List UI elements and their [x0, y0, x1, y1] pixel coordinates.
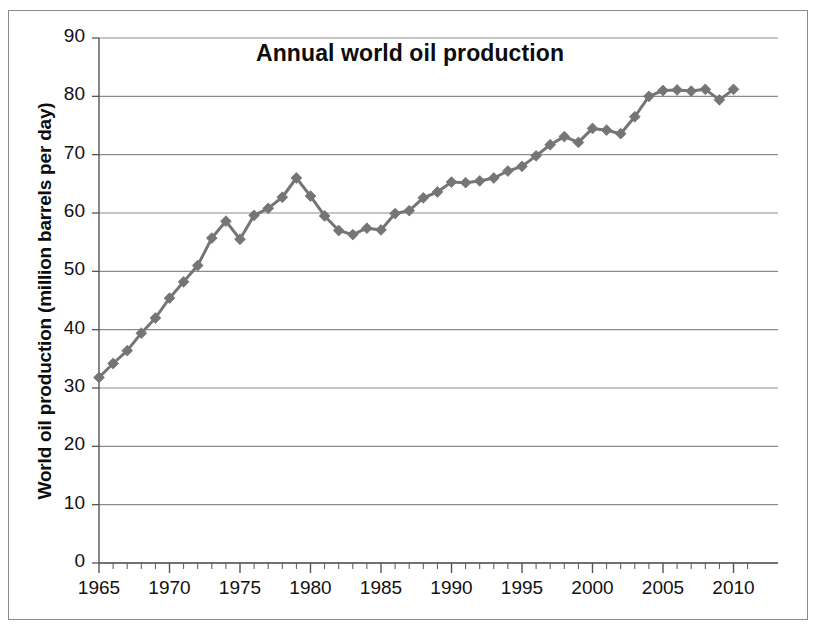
- data-point-marker: [503, 166, 514, 177]
- y-tick-label: 10: [39, 492, 85, 514]
- x-tick-label: 1970: [135, 577, 205, 599]
- x-tick-label: 2000: [558, 577, 628, 599]
- x-tick-label: 1985: [346, 577, 416, 599]
- x-tick-label: 2005: [628, 577, 698, 599]
- data-line: [99, 89, 734, 377]
- x-axis-ticks: [99, 563, 748, 573]
- y-tick-label: 60: [39, 200, 85, 222]
- x-tick-label: 1995: [487, 577, 557, 599]
- y-tick-label: 70: [39, 142, 85, 164]
- y-tick-label: 0: [39, 550, 85, 572]
- data-point-marker: [658, 85, 669, 96]
- chart-figure: World oil production (million barrels pe…: [0, 0, 820, 631]
- data-point-marker: [362, 223, 373, 234]
- data-markers: [94, 84, 739, 383]
- data-point-marker: [686, 86, 697, 97]
- data-point-marker: [460, 177, 471, 188]
- x-tick-label: 1980: [276, 577, 346, 599]
- x-axis: [99, 38, 778, 563]
- series-polyline: [99, 89, 734, 377]
- y-tick-label: 80: [39, 83, 85, 105]
- x-tick-label: 2010: [699, 577, 769, 599]
- x-tick-label: 1975: [205, 577, 275, 599]
- data-point-marker: [672, 85, 683, 96]
- x-tick-label: 1965: [64, 577, 134, 599]
- data-point-marker: [488, 173, 499, 184]
- y-axis-ticks: [92, 38, 99, 563]
- data-point-marker: [474, 176, 485, 187]
- x-tick-label: 1990: [417, 577, 487, 599]
- data-point-marker: [601, 125, 612, 136]
- y-tick-label: 40: [39, 317, 85, 339]
- y-tick-label: 90: [39, 25, 85, 47]
- chart-plot: [0, 0, 820, 631]
- gridlines: [99, 38, 778, 563]
- y-tick-label: 30: [39, 375, 85, 397]
- y-tick-label: 50: [39, 258, 85, 280]
- data-point-marker: [347, 229, 358, 240]
- y-tick-label: 20: [39, 433, 85, 455]
